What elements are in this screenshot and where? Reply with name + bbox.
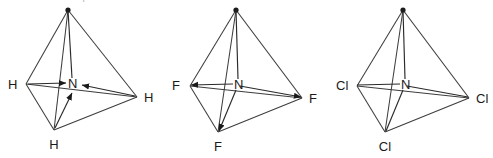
tetrahedron-edges-nh3 — [26, 10, 137, 130]
bond-left-ncl3 — [357, 84, 400, 85]
dipole-arrow-left-nh3 — [28, 83, 66, 84]
outer-atom-label-left-nf3: F — [172, 78, 180, 93]
diagram-nf3: N F F F — [172, 7, 317, 154]
center-atom-label-nh3: N — [68, 76, 77, 91]
outer-atom-label-right-nh3: H — [144, 90, 153, 105]
dipole-arrow-right-nh3 — [82, 85, 135, 96]
outer-atom-label-left-nh3: H — [8, 77, 17, 92]
dipole-arrow-right-nf3 — [240, 86, 301, 97]
bond-apex-to-center-nf3 — [236, 10, 238, 79]
center-atom-label-ncl3: N — [401, 77, 410, 92]
tetrahedron-edges-ncl3 — [357, 10, 469, 132]
center-atom-label-nf3: N — [234, 77, 243, 92]
diagram-ncl3: N Cl Cl Cl — [336, 7, 488, 154]
tetrahedron-edges-nf3 — [190, 10, 302, 132]
diagram-nh3: N H H H — [8, 7, 153, 152]
outer-atom-label-right-nf3: F — [309, 91, 317, 106]
outer-atom-label-bottom-ncl3: Cl — [379, 139, 391, 154]
bond-right-ncl3 — [407, 86, 468, 97]
molecule-diagram-canvas: N H H H N F F F — [0, 0, 493, 158]
dipole-arrow-left-nf3 — [191, 84, 233, 85]
outer-atom-label-bottom-nf3: F — [214, 139, 222, 154]
figure-caption-cropped: Which of these is polar? — [16, 0, 106, 2]
outer-atom-label-right-ncl3: Cl — [476, 91, 488, 106]
outer-atom-label-bottom-nh3: H — [49, 137, 58, 152]
figure-root: Which of these is polar? — [0, 0, 493, 158]
bond-apex-to-center-nh3 — [68, 10, 72, 78]
outer-atom-label-left-ncl3: Cl — [336, 78, 348, 93]
bond-apex-to-center-ncl3 — [403, 10, 405, 79]
